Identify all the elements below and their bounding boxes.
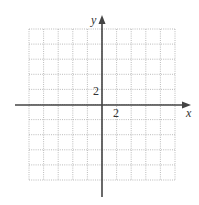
y-tick-label: 2 [93,84,99,98]
y-axis-label: y [90,13,97,27]
x-tick-label: 2 [113,106,119,120]
y-axis-arrow-icon [99,15,106,24]
coordinate-plane: x y 2 2 [0,0,199,205]
x-axis-label: x [185,106,192,120]
